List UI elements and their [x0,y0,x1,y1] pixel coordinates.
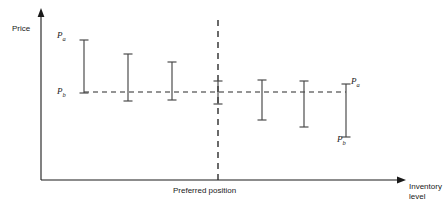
y-axis [38,8,45,180]
preferred-position-label: Preferred position [173,186,236,196]
bid-price-label-right: Pb [337,134,346,146]
bid-price-label-left: Pb [57,86,66,98]
error-bar [300,81,309,127]
x-axis [41,177,406,184]
ask-price-label-right-sub: a [357,81,360,88]
ask-price-label-right: Pa [351,76,360,88]
error-bar [342,84,351,137]
chart-figure: Price Inventory level Preferred position… [0,0,445,222]
error-bar [168,62,177,100]
bid-price-label-right-sub: b [343,139,346,146]
error-bar-group [80,40,351,137]
error-bar [80,40,89,93]
ask-price-label-left-sub: a [63,35,66,42]
error-bar [258,80,267,120]
ask-price-label-left: Pa [57,30,66,42]
error-bar [124,54,133,101]
x-axis-title: Inventory level [409,182,445,202]
y-axis-title: Price [12,24,30,34]
bid-price-label-left-sub: b [63,91,66,98]
